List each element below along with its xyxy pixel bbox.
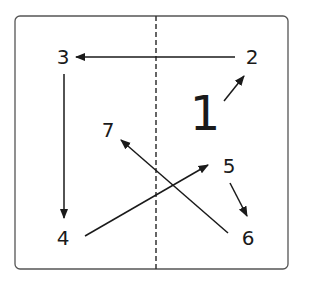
node-7-label: 7: [102, 120, 115, 140]
arrow-5-to-6: [230, 183, 247, 216]
node-6-label: 6: [242, 228, 255, 248]
arrow-1-to-2: [224, 76, 244, 101]
node-4-label: 4: [57, 228, 70, 248]
node-3-label: 3: [57, 47, 70, 67]
node-5-label: 5: [223, 156, 236, 176]
arrow-6-to-7: [121, 140, 228, 233]
node-2-label: 2: [246, 47, 259, 67]
title-number-1: 1: [190, 89, 221, 137]
